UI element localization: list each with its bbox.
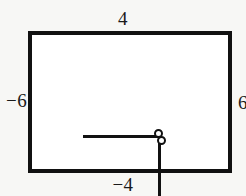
plot-frame [28, 31, 232, 173]
node-marker-lower [157, 136, 166, 145]
axis-label-right: 6 [238, 93, 246, 112]
axis-label-top: 4 [0, 9, 246, 28]
vertical-line-segment [158, 136, 161, 196]
axis-label-left: −6 [6, 91, 27, 110]
figure-canvas: 4 −6 6 −4 [0, 0, 246, 196]
axis-label-bottom: −4 [0, 175, 246, 194]
horizontal-line-segment [83, 135, 160, 138]
